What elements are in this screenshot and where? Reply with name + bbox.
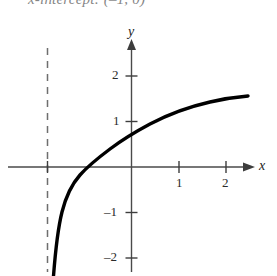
- x-tick-label-1: 1: [176, 175, 183, 191]
- x-axis-arrowhead: [243, 163, 255, 172]
- y-tick-label-2: 2: [112, 67, 119, 83]
- y-axis-label: y: [128, 24, 134, 40]
- y-axis-arrowhead: [127, 39, 136, 50]
- y-tick-label-neg2: –2: [104, 249, 117, 265]
- x-tick-label-2: 2: [222, 175, 229, 191]
- y-tick-label-1: 1: [113, 113, 120, 129]
- coordinate-plot: [0, 0, 277, 276]
- log-curve-path: [54, 96, 249, 276]
- x-axis-label: x: [259, 158, 265, 174]
- figure-container: x-intercept: (–1, 0) y x 1 2 2 1 –1 –2: [0, 0, 277, 276]
- y-tick-label-neg1: –1: [104, 204, 117, 220]
